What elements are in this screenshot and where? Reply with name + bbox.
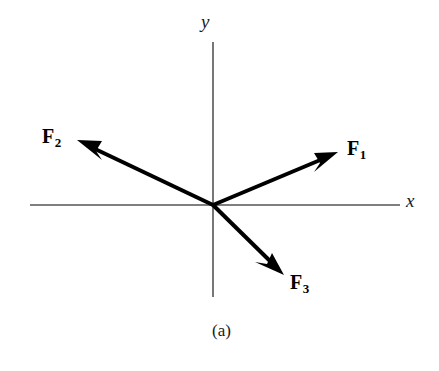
vector-label-f2: F2	[42, 126, 61, 149]
vector-label-f3-subscript: 3	[302, 281, 309, 296]
diagram-canvas	[0, 0, 439, 371]
vector-label-f3-base: F	[290, 271, 302, 293]
vector-f2	[77, 140, 213, 205]
vector-label-f2-base: F	[42, 125, 54, 147]
figure-caption: (a)	[212, 322, 231, 339]
vector-label-f1: F1	[347, 138, 366, 161]
y-axis-label: y	[201, 12, 209, 31]
vector-f3	[213, 205, 284, 275]
x-axis-label: x	[406, 191, 414, 210]
vector-label-f1-subscript: 1	[359, 147, 366, 162]
force-vector-diagram: y x F1 F2 F3 (a)	[0, 0, 439, 371]
vector-f2-shaft	[93, 148, 213, 205]
vector-f3-arrowhead	[255, 253, 284, 275]
vector-label-f1-base: F	[347, 137, 359, 159]
vector-label-f3: F3	[290, 272, 309, 295]
vector-f1	[213, 152, 338, 205]
vector-label-f2-subscript: 2	[54, 135, 61, 150]
vector-f3-shaft	[213, 205, 270, 261]
vector-f1-shaft	[213, 158, 325, 205]
